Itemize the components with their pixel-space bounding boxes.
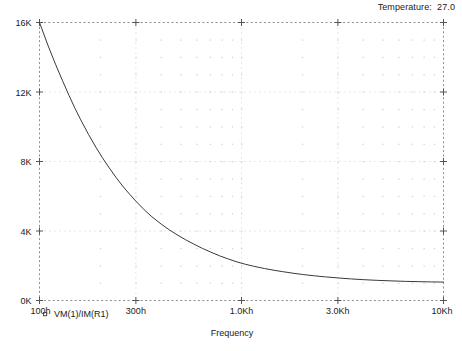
legend: VM(1)/IM(R1): [44, 309, 109, 319]
plot-canvas: 0K4K8K12K16K 100h300h1.0Kh3.0Kh10Kh VM(1…: [0, 0, 462, 351]
x-axis-title: Frequency: [211, 328, 254, 338]
y-tick-label: 12K: [15, 88, 31, 98]
x-tick-label: 1.0Kh: [230, 306, 254, 316]
x-tick-label: 300h: [126, 306, 146, 316]
x-axis-title-label: Frequency: [211, 328, 254, 338]
x-tick-label: 10Kh: [431, 306, 452, 316]
y-axis-tick-labels: 0K4K8K12K16K: [15, 18, 31, 306]
y-tick-label: 16K: [15, 18, 31, 28]
y-tick-label: 0K: [20, 296, 31, 306]
y-tick-label: 4K: [20, 227, 31, 237]
legend-entry-label[interactable]: VM(1)/IM(R1): [54, 309, 109, 319]
y-tick-label: 8K: [20, 157, 31, 167]
x-tick-label: 100h: [31, 306, 51, 316]
frequency-response-chart: Temperature: 27.0 0K4K8K12K16K 100h300h1…: [0, 0, 462, 351]
x-tick-label: 3.0Kh: [326, 306, 350, 316]
